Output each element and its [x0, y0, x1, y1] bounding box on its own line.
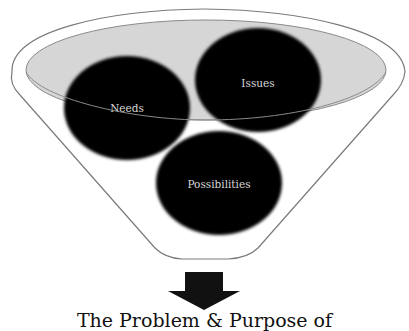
- output-title: The Problem & Purpose of: [0, 309, 409, 331]
- circle-label-needs: Needs: [110, 102, 144, 114]
- circle-label-issues: Issues: [241, 77, 274, 89]
- circle-label-possibilities: Possibilities: [187, 178, 250, 190]
- circle-needs: Needs: [64, 56, 190, 160]
- down-arrow-icon: [168, 272, 240, 310]
- circle-possibilities: Possibilities: [156, 131, 282, 235]
- circle-issues: Issues: [195, 28, 321, 132]
